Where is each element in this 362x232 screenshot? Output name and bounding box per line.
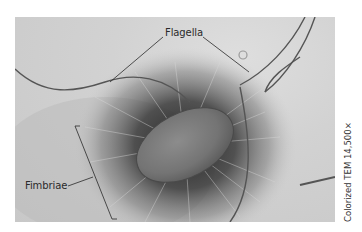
micrograph-drawing [15, 17, 335, 222]
micrograph-figure: Flagella Fimbriae Colorized TEM 14,500× [0, 0, 362, 232]
magnification-caption: Colorized TEM 14,500× [343, 122, 353, 222]
fimbriae-label: Fimbriae [25, 180, 67, 191]
flagella-label: Flagella [165, 27, 203, 38]
tem-micrograph-image [15, 17, 335, 222]
